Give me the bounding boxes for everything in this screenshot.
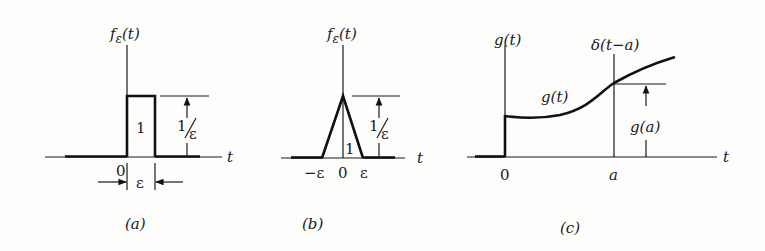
panel-b-tick-zero: 0 (338, 164, 348, 182)
panel-b-tick-neg: −ε (304, 164, 325, 182)
panel-b-height-num: 1 (369, 117, 379, 135)
panel-b-height-den: ε (381, 125, 389, 143)
g-curve (505, 57, 675, 118)
panel-a-width: ε (136, 174, 144, 192)
caption-b: (b) (302, 215, 323, 233)
panel-a-xlabel: t (227, 148, 234, 166)
panel-a-ylabel: fε(t) (109, 25, 140, 46)
caption-c: (c) (560, 219, 580, 237)
panel-c-tick-a: a (609, 166, 618, 184)
panel-a-origin: 0 (116, 162, 126, 180)
panel-c-curve-label: g(t) (541, 88, 568, 106)
panel-c-value-label: g(a) (630, 118, 660, 136)
panel-a-area-label: 1 (136, 119, 146, 137)
panel-a-rect-pulse (45, 45, 222, 190)
panel-b-tick-pos: ε (360, 164, 368, 182)
panel-c-tick-zero: 0 (500, 166, 510, 184)
panel-c-ylabel: g(t) (494, 31, 521, 49)
panel-b-xlabel: t (417, 149, 424, 167)
panel-c-delta-label: δ(t−a) (591, 36, 639, 54)
panel-c-sifting (467, 45, 717, 157)
panel-a-height-den: ε (189, 125, 197, 143)
caption-a: (a) (125, 215, 146, 233)
panel-c-xlabel: t (723, 148, 730, 166)
figure: fε(t) 1 1 ε t 0 ε (a) fε(t) 1 1 ε t −ε 0… (0, 0, 765, 251)
panel-b-area-label: 1 (345, 140, 355, 158)
panel-b-ylabel: fε(t) (326, 25, 357, 46)
panel-a-height-num: 1 (177, 117, 187, 135)
